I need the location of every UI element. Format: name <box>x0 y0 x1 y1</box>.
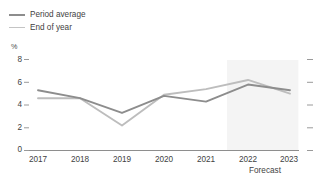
y-axis-ticks-right <box>307 60 313 151</box>
chart-plot-area <box>0 0 321 180</box>
y-axis-ticks-left <box>24 60 29 151</box>
chart-container: Period average End of year % 8 6 4 2 0 2… <box>0 0 321 180</box>
forecast-shaded-region <box>227 60 298 151</box>
